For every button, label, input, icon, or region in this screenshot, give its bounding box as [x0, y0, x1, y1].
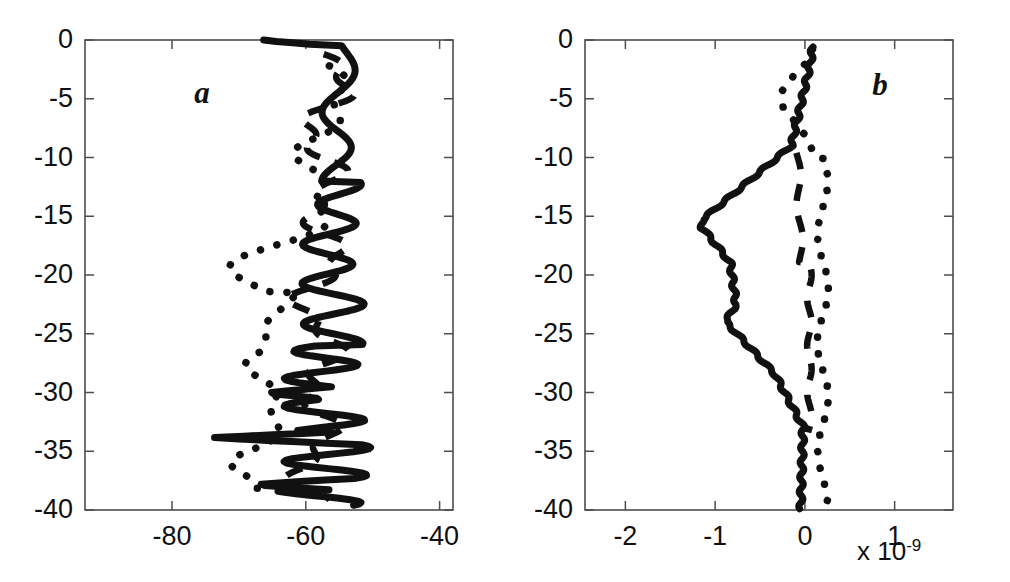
panel-b-tick-marks — [585, 40, 953, 510]
y-tick-label: -10 — [534, 142, 573, 172]
panel-b-axes-frame — [585, 40, 953, 510]
figure-root: 0-5-10-15-20-25-30-35-40-80-60-40 a 0-5-… — [0, 0, 1010, 582]
y-tick-label: -25 — [534, 318, 573, 348]
y-tick-label: -35 — [534, 435, 573, 465]
y-tick-label: -5 — [549, 83, 573, 113]
x-tick-label: -1 — [703, 521, 727, 551]
y-tick-label: -15 — [534, 200, 573, 230]
panel-b-series-group — [700, 47, 828, 509]
y-tick-label: -40 — [534, 494, 573, 524]
panel-a-plot: 0-5-10-15-20-25-30-35-40-80-60-40 a — [0, 0, 505, 582]
x-tick-label: -80 — [152, 521, 191, 551]
y-tick-label: -20 — [534, 259, 573, 289]
panel-a: 0-5-10-15-20-25-30-35-40-80-60-40 a — [0, 0, 505, 582]
y-tick-label: -30 — [534, 377, 573, 407]
panel-a-tick-labels: 0-5-10-15-20-25-30-35-40-80-60-40 — [34, 24, 459, 551]
y-tick-label: -25 — [34, 318, 73, 348]
x-tick-label: -40 — [420, 521, 459, 551]
y-tick-label: -10 — [34, 142, 73, 172]
y-tick-label: -35 — [34, 435, 73, 465]
panel-b-series-solid — [700, 47, 813, 509]
x-tick-label: -60 — [286, 521, 325, 551]
panel-b: 0-5-10-15-20-25-30-35-40-2-101 b x 10-9 — [505, 0, 1010, 582]
y-tick-label: -20 — [34, 259, 73, 289]
panel-b-series-dashed — [796, 153, 811, 433]
x-tick-label: -2 — [613, 521, 637, 551]
y-tick-label: -40 — [34, 494, 73, 524]
panel-b-tick-labels: 0-5-10-15-20-25-30-35-40-2-101 — [534, 24, 902, 551]
panel-b-letter: b — [872, 67, 888, 102]
y-tick-label: -30 — [34, 377, 73, 407]
y-tick-label: 0 — [558, 24, 573, 54]
panel-a-series-group — [215, 40, 371, 505]
y-tick-label: -15 — [34, 200, 73, 230]
panel-a-series-solid — [215, 40, 371, 505]
x-tick-label: 0 — [797, 521, 812, 551]
y-tick-label: -5 — [49, 83, 73, 113]
y-tick-label: 0 — [58, 24, 73, 54]
panel-b-plot: 0-5-10-15-20-25-30-35-40-2-101 b x 10-9 — [505, 0, 1010, 582]
panel-b-axis-multiplier: x 10-9 — [857, 536, 921, 567]
panel-a-letter: a — [194, 75, 210, 110]
